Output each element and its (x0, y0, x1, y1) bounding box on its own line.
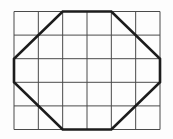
octagon-on-grid-drawing (0, 0, 173, 139)
grid-octagon-figure (0, 0, 173, 139)
grid-lines (14, 12, 160, 130)
